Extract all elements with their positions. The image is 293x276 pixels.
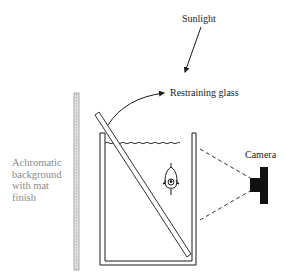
camera-icon [250, 167, 268, 204]
achromatic-background-panel [74, 93, 79, 270]
diagram-canvas [0, 0, 293, 276]
sunlight-arrow [185, 27, 201, 72]
camera-view-line-bottom [200, 191, 250, 220]
achromatic-background-label: Achromatic background with mat finish [12, 157, 62, 203]
restraining-glass-pointer-arrow [108, 93, 164, 125]
restraining-glass-label: Restraining glass [170, 87, 239, 99]
sunlight-label: Sunlight [182, 13, 216, 25]
camera-view-line-top [200, 149, 250, 178]
camera-label: Camera [245, 149, 276, 161]
fish-icon [163, 163, 179, 195]
